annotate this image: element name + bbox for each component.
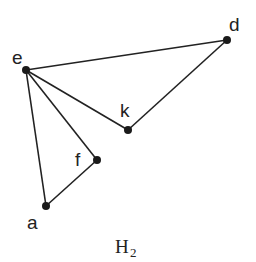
graph-caption-subscript: 2	[130, 245, 137, 260]
nodes	[22, 36, 231, 210]
node-f	[93, 156, 101, 164]
graph-svg: e d k f a H 2	[0, 0, 256, 262]
node-k	[124, 126, 132, 134]
node-d	[223, 36, 231, 44]
node-label-k: k	[120, 100, 130, 121]
node-label-a: a	[27, 212, 38, 233]
edge-f-a	[46, 160, 97, 206]
edges	[26, 40, 227, 206]
edge-e-k	[26, 70, 128, 130]
graph-caption: H	[115, 236, 129, 257]
node-label-d: d	[229, 14, 240, 35]
node-e	[22, 66, 30, 74]
node-label-f: f	[75, 149, 81, 170]
node-label-e: e	[12, 47, 23, 68]
edge-e-d	[26, 40, 227, 70]
edge-d-k	[128, 40, 227, 130]
node-a	[42, 202, 50, 210]
graph-diagram: e d k f a H 2	[0, 0, 256, 262]
